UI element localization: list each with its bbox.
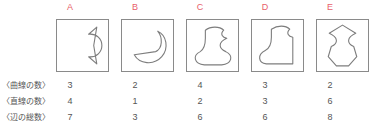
cell-curved-d: 3 <box>233 80 297 91</box>
shape-box-a <box>56 19 109 72</box>
cell-total-a: 7 <box>38 112 102 123</box>
cell-straight-a: 4 <box>38 96 102 107</box>
cell-straight-b: 1 <box>103 96 167 107</box>
cell-curved-c: 4 <box>168 80 232 91</box>
column-header-d: D <box>233 1 297 13</box>
cell-curved-b: 2 <box>103 80 167 91</box>
shape-box-c <box>186 19 239 72</box>
cell-straight-e: 6 <box>298 96 362 107</box>
cell-curved-e: 2 <box>298 80 362 91</box>
cell-total-c: 6 <box>168 112 232 123</box>
cell-curved-a: 3 <box>38 80 102 91</box>
angular-hourglass-shape <box>317 20 368 71</box>
cell-total-b: 3 <box>103 112 167 123</box>
column-header-b: B <box>103 1 167 13</box>
fish-shape <box>57 20 108 71</box>
vase-rounded-shape <box>187 20 238 71</box>
pacman-spiral-shape <box>122 20 173 71</box>
shape-edge-count-figure: A B C D E 〈曲線の数〉 3 2 4 3 2 〈直線の数〉 <box>0 0 379 131</box>
column-header-e: E <box>298 1 362 13</box>
cell-total-e: 8 <box>298 112 362 123</box>
shape-box-e <box>316 19 369 72</box>
cell-straight-c: 2 <box>168 96 232 107</box>
vase-flat-base-shape <box>252 20 303 71</box>
cell-total-d: 6 <box>233 112 297 123</box>
shape-box-b <box>121 19 174 72</box>
cell-straight-d: 3 <box>233 96 297 107</box>
column-header-c: C <box>168 1 232 13</box>
shape-box-d <box>251 19 304 72</box>
column-header-a: A <box>38 1 102 13</box>
